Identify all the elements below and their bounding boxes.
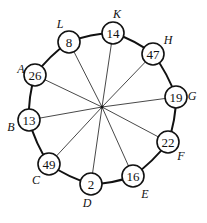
node-value: 26 [29,68,43,83]
node-value: 16 [127,169,141,184]
node-label: E [140,187,149,201]
hub-center [101,106,104,109]
node-G: 19G [165,86,197,108]
node-value: 19 [170,90,183,105]
node-label: A [16,62,25,76]
node-value: 13 [23,113,36,128]
node-A: 26A [16,62,46,86]
node-E: 16E [122,165,149,201]
node-value: 22 [162,135,175,150]
node-label: D [82,196,92,210]
node-F: 22F [157,131,185,163]
node-K: 14K [102,7,124,44]
node-value: 14 [107,26,121,41]
node-label: B [7,120,15,134]
node-value: 49 [43,157,56,172]
node-C: 49C [32,153,60,187]
node-value: 47 [147,47,161,62]
node-label: C [32,173,41,187]
node-label: K [112,7,122,21]
node-label: L [56,17,64,31]
wheel-graph-diagram: 8L14K47H19G22F16E2D49C13B26A [0,0,207,223]
node-value: 2 [88,177,95,192]
node-L: 8L [56,17,80,53]
node-label: G [188,89,197,103]
node-B: 13B [7,109,40,134]
node-D: 2D [80,173,102,210]
node-H: 47H [142,33,174,65]
node-value: 8 [66,35,73,50]
node-label: H [163,33,174,47]
node-label: F [176,149,185,163]
